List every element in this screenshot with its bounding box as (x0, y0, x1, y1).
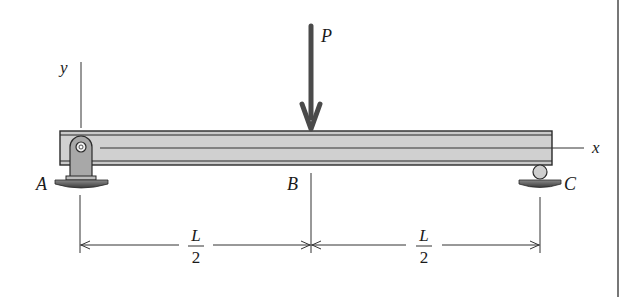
beam-diagram: y x A C P B (0, 0, 631, 297)
dimension-bc: L 2 (416, 226, 432, 267)
extension-lines (80, 173, 540, 253)
dimension-bc-denominator: 2 (420, 248, 429, 267)
support-c-label: C (564, 174, 577, 194)
dimension-ab: L 2 (188, 226, 204, 267)
support-a-label: A (35, 174, 48, 194)
dimension-ab-denominator: 2 (192, 248, 201, 267)
point-b: B (287, 174, 298, 194)
load-arrow-p: P (302, 26, 332, 129)
y-axis: y (58, 58, 81, 128)
point-b-label: B (287, 174, 298, 194)
x-axis-label: x (591, 138, 600, 157)
dimension-bc-numerator: L (418, 226, 428, 245)
roller-support-c: C (519, 165, 577, 194)
dimension-line (80, 241, 540, 249)
dimension-ab-numerator: L (190, 226, 200, 245)
y-axis-label: y (58, 58, 68, 77)
load-label: P (320, 26, 332, 46)
